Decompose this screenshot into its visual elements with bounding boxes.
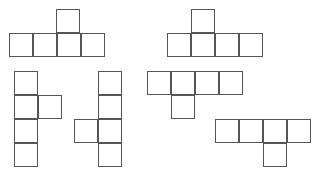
polyomino-cell bbox=[15, 144, 38, 167]
polyomino-cell bbox=[240, 34, 263, 57]
polyomino-cell bbox=[58, 34, 81, 57]
polyomino-cell bbox=[172, 96, 195, 119]
polyomino-cell bbox=[15, 96, 38, 119]
polyomino-cell bbox=[39, 96, 62, 119]
polyomino-cell bbox=[264, 120, 287, 143]
polyomino-cell bbox=[192, 10, 215, 33]
polyomino-cell bbox=[148, 72, 171, 95]
polyomino-cell bbox=[82, 34, 105, 57]
polyomino-cell bbox=[192, 34, 215, 57]
polyomino-cell bbox=[99, 144, 122, 167]
polyomino-cell bbox=[99, 72, 122, 95]
polyomino-cell bbox=[34, 34, 57, 57]
polyomino-row-of-four-with-bump-on-third bbox=[10, 10, 105, 57]
polyomino-cell bbox=[220, 72, 243, 95]
shapes-layer bbox=[10, 10, 311, 167]
polyomino-cell bbox=[264, 144, 287, 167]
polyomino-cell bbox=[99, 96, 122, 119]
polyomino-column-of-four-with-bump-right-on-second bbox=[15, 72, 62, 167]
polyomino-cell bbox=[172, 72, 195, 95]
polyomino-figure-canvas bbox=[0, 0, 325, 175]
polyomino-row-of-four-with-drop-on-third bbox=[216, 120, 311, 167]
polyomino-row-of-four-with-bump-on-second bbox=[168, 10, 263, 57]
polyomino-cell bbox=[168, 34, 191, 57]
polyomino-cell bbox=[15, 72, 38, 95]
polyomino-cell bbox=[10, 34, 33, 57]
polyomino-cell bbox=[240, 120, 263, 143]
polyomino-cell bbox=[216, 120, 239, 143]
polyomino-cell bbox=[288, 120, 311, 143]
polyomino-cell bbox=[196, 72, 219, 95]
polyomino-row-of-four-with-drop-on-second bbox=[148, 72, 243, 119]
polyomino-column-of-four-with-bump-left-on-third bbox=[75, 72, 122, 167]
polyomino-cell bbox=[99, 120, 122, 143]
polyomino-cell bbox=[15, 120, 38, 143]
polyomino-cell bbox=[57, 10, 80, 33]
polyomino-cell bbox=[75, 120, 98, 143]
polyomino-cell bbox=[216, 34, 239, 57]
